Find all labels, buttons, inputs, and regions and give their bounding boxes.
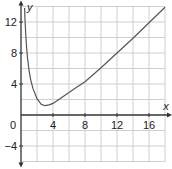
y-tick-label: 8: [11, 47, 17, 59]
y-axis-arrow-down-icon: [19, 163, 24, 168]
x-tick-label: 16: [143, 119, 155, 131]
function-graph: 4812161284−4 x y 0: [0, 0, 172, 169]
x-axis-arrow-icon: [167, 113, 172, 118]
x-tick-label: 12: [111, 119, 123, 131]
y-tick-label: 4: [11, 78, 17, 90]
x-tick-label: 4: [50, 119, 56, 131]
y-tick-label: −4: [4, 140, 17, 152]
y-axis-arrow-up-icon: [19, 1, 24, 6]
x-tick-label: 8: [82, 119, 88, 131]
origin-label: 0: [10, 119, 16, 131]
grid-lines: [21, 7, 165, 162]
x-axis-label: x: [162, 100, 169, 112]
y-tick-label: 12: [5, 16, 17, 28]
